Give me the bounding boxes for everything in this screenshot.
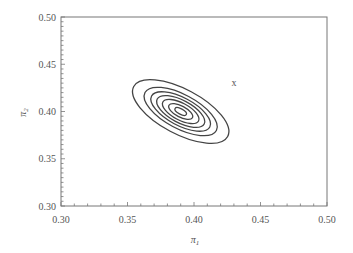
contour-line <box>166 100 195 122</box>
y-tick-label: 0.45 <box>39 59 57 70</box>
y-axis-label: π2 <box>17 108 30 117</box>
y-tick-label: 0.35 <box>39 153 57 164</box>
y-tick-label: 0.40 <box>39 106 57 117</box>
x-tick-label: 0.50 <box>318 214 336 225</box>
x-tick-label: 0.45 <box>252 214 270 225</box>
contour-line <box>123 67 238 156</box>
y-tick-label: 0.50 <box>39 12 57 23</box>
contour-line <box>137 78 224 146</box>
y-tick-label: 0.30 <box>39 201 57 212</box>
contour-chart: 0.300.350.400.450.500.300.350.400.450.50… <box>0 0 353 253</box>
x-tick-label: 0.40 <box>185 214 203 225</box>
x-tick-label: 0.35 <box>119 214 137 225</box>
plot-frame <box>61 17 327 206</box>
x-tick-label: 0.30 <box>52 214 70 225</box>
point-marker: x <box>231 77 236 88</box>
x-axis-label: π1 <box>191 234 200 247</box>
